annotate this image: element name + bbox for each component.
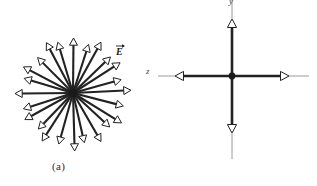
axis-arrowhead-left <box>175 71 184 80</box>
cross-axes-group <box>158 0 309 159</box>
field-ray-arrowhead <box>115 100 123 108</box>
starburst-center-dot <box>69 89 77 97</box>
axis-arrowhead-right <box>281 71 290 80</box>
figure-root: (a) E (b) 非偏振光的 快速表示法 z y <box>0 0 317 186</box>
panel-b-quick-notation: (b) 非偏振光的 快速表示法 <box>158 0 317 186</box>
field-ray-arrowhead <box>124 87 131 95</box>
field-ray-arrowhead <box>113 78 121 86</box>
field-ray-arrowhead <box>23 103 31 111</box>
panel-a-unpolarized-starburst: (a) E <box>0 0 158 186</box>
field-ray-shaft <box>21 93 73 94</box>
axis-label-z: z <box>146 66 150 76</box>
starburst-diagram <box>0 0 158 186</box>
field-ray-arrowhead <box>79 135 87 143</box>
field-ray-shaft <box>73 93 74 145</box>
cross-axes-diagram <box>158 0 317 186</box>
electric-field-symbol: E <box>116 46 123 57</box>
field-ray-arrowhead <box>69 38 77 45</box>
electric-field-vector-label: E <box>116 46 123 57</box>
field-ray-arrowhead <box>70 144 78 151</box>
axis-label-y: y <box>229 0 233 6</box>
cross-center-dot <box>229 73 236 80</box>
axis-arrowhead-up <box>227 19 236 28</box>
panel-a-caption: (a) <box>52 160 65 172</box>
field-ray-arrowhead <box>56 42 64 50</box>
field-ray-arrowhead <box>57 136 65 144</box>
field-ray-arrowhead <box>15 89 22 97</box>
field-ray-arrowhead <box>83 44 91 52</box>
axis-arrowhead-down <box>227 125 236 134</box>
field-ray-arrowhead <box>24 77 32 85</box>
